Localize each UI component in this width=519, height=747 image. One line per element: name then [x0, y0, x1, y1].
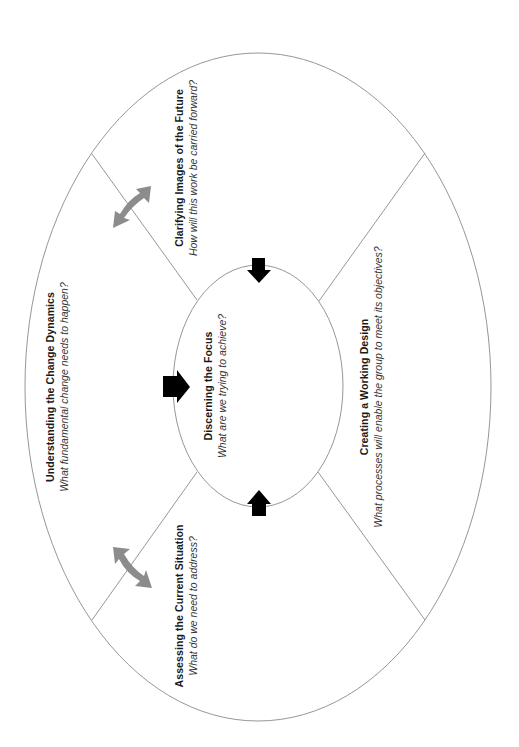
sector-title: Creating a Working Design	[357, 246, 371, 527]
sector-title: Understanding the Change Dynamics	[43, 282, 57, 492]
diagram-canvas	[0, 0, 519, 747]
sector-label-creating: Creating a Working Design What processes…	[357, 246, 385, 527]
inner-ellipse	[173, 265, 343, 507]
sector-question: What processes will enable the group to …	[371, 246, 385, 527]
cycle-arrow-top-icon	[113, 186, 151, 228]
sector-title: Assessing the Current Situation	[172, 525, 186, 688]
sector-question: What fundamental change needs to happen?	[57, 282, 71, 492]
center-title: Discerning the Focus	[201, 314, 215, 458]
center-question: What are we trying to achieve?	[215, 314, 229, 458]
sector-title: Clarifying Images of the Future	[172, 80, 186, 256]
sector-question: What do we need to address?	[186, 525, 200, 688]
sector-question: How will this work be carried forward?	[186, 80, 200, 256]
sector-label-assessing: Assessing the Current Situation What do …	[172, 525, 200, 688]
sector-label-clarifying: Clarifying Images of the Future How will…	[172, 80, 200, 256]
sector-label-understanding: Understanding the Change Dynamics What f…	[43, 282, 71, 492]
center-label-discerning: Discerning the Focus What are we trying …	[201, 314, 229, 458]
